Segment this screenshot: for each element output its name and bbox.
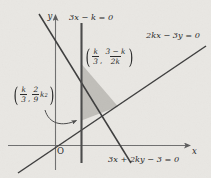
label-line-2kx-3y-0: 2kx − 3y = 0: [146, 31, 200, 39]
exponent-two-lower: 2: [45, 92, 48, 98]
fraction-y-upper-denominator: 2k: [110, 56, 121, 65]
fraction-x-upper-numerator: k: [92, 48, 98, 56]
x-axis-label: x: [192, 147, 197, 156]
origin-label: O: [57, 147, 64, 156]
fraction-coefficient-denominator: 9: [32, 94, 39, 103]
fraction-y-upper: 3 − k 2k: [104, 48, 127, 66]
y-axis-label: y: [48, 12, 53, 21]
fraction-x-upper: k 3: [92, 48, 100, 66]
fraction-x-lower: k 3: [20, 86, 28, 104]
label-line-3x-k-0: 3x − k = 0: [69, 13, 113, 21]
coordinate-label-upper-vertex: ( k 3 , 3 − k 2k ): [84, 48, 135, 66]
geometry-figure: 3x − k = 0 2kx − 3y = 0 3x + 2ky − 3 = 0…: [0, 0, 211, 178]
fraction-y-upper-numerator: 3 − k: [104, 48, 126, 56]
fraction-x-lower-denominator: 3: [20, 94, 27, 103]
fraction-x-lower-numerator: k: [20, 86, 26, 94]
fraction-coefficient-lower: 2 9: [32, 86, 40, 104]
fraction-x-upper-denominator: 3: [92, 56, 99, 65]
coordinate-label-lower-vertex: ( k 3 , 2 9 k 2 ): [12, 86, 56, 104]
fraction-coefficient-numerator: 2: [32, 86, 39, 94]
label-line-3x-2ky-3-0: 3x + 2ky − 3 = 0: [108, 155, 179, 163]
